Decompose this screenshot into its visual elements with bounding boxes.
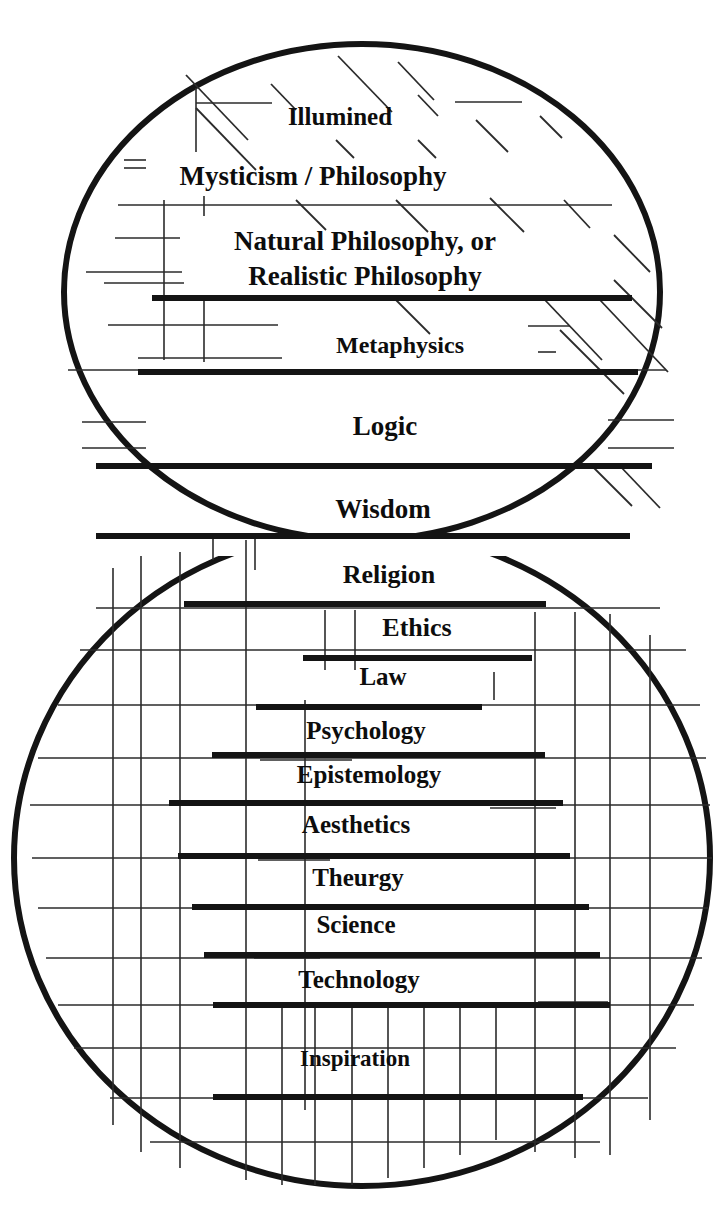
label-metaphysics: Metaphysics <box>336 332 464 358</box>
label-illumined: Illumined <box>288 103 392 130</box>
label-epistemology: Epistemology <box>297 761 442 788</box>
label-natural-philosophy-line2: Realistic Philosophy <box>248 261 482 291</box>
label-psychology: Psychology <box>306 717 426 744</box>
label-wisdom: Wisdom <box>335 494 431 524</box>
label-religion: Religion <box>343 560 436 589</box>
label-ethics: Ethics <box>382 613 451 642</box>
label-law: Law <box>359 663 406 690</box>
label-technology: Technology <box>298 966 420 993</box>
knowledge-hierarchy-diagram: Illumined Mysticism / Philosophy Natural… <box>0 0 724 1212</box>
label-science: Science <box>316 911 395 938</box>
label-theurgy: Theurgy <box>312 864 404 891</box>
label-natural-philosophy-line1: Natural Philosophy, or <box>234 226 496 256</box>
label-mysticism-philosophy: Mysticism / Philosophy <box>179 161 447 191</box>
diagram-canvas: Illumined Mysticism / Philosophy Natural… <box>0 0 724 1212</box>
label-logic: Logic <box>353 411 418 441</box>
label-aesthetics: Aesthetics <box>302 811 411 838</box>
label-inspiration: Inspiration <box>300 1046 410 1071</box>
